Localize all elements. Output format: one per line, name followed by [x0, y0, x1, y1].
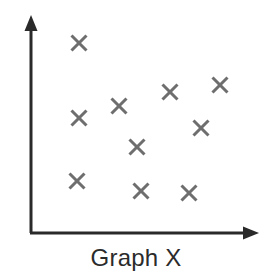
x-marker-icon [194, 121, 209, 136]
x-marker-icon [70, 174, 85, 189]
x-axis [30, 227, 259, 240]
scatter-plot-figure: Graph X [0, 0, 272, 277]
x-marker-icon [72, 111, 87, 126]
plot-area [0, 0, 272, 240]
y-axis-arrow-icon [25, 15, 38, 31]
y-axis [25, 15, 38, 233]
x-marker-icon [213, 78, 228, 93]
x-marker-icon [112, 99, 127, 114]
plot-svg [0, 0, 272, 240]
x-marker-icon [163, 85, 178, 100]
data-point-markers [70, 36, 228, 201]
graph-caption: Graph X [0, 243, 272, 273]
x-marker-icon [134, 184, 149, 199]
x-marker-icon [130, 140, 145, 155]
x-marker-icon [182, 186, 197, 201]
x-axis-arrow-icon [243, 227, 259, 240]
x-marker-icon [72, 36, 87, 51]
